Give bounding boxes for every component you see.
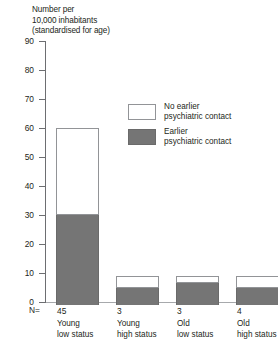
legend-label-line: psychiatric contact (164, 137, 231, 147)
x-axis-category-line: Old (177, 318, 213, 329)
x-axis-category-line: Young (117, 318, 157, 329)
x-axis-category-line: high status (237, 329, 277, 340)
x-axis-category-line: Old (237, 318, 277, 329)
x-axis-n-value: 4 (237, 306, 277, 318)
x-axis-category-line: low status (177, 329, 213, 340)
x-axis-n-value: 3 (117, 306, 157, 318)
x-axis-category-line: high status (117, 329, 157, 340)
x-axis-group-1: 45Younglow status (57, 306, 93, 340)
legend-label-line: No earlier (164, 102, 231, 112)
y-axis-title: Number per 10,000 inhabitants (standardi… (32, 5, 110, 37)
y-axis-tick-label: 10 (2, 269, 34, 277)
y-axis-tick-label: 90 (2, 37, 34, 45)
y-axis-tick-label: 60 (2, 124, 34, 132)
bar-segment-no-earlier-contact (176, 276, 219, 283)
bar-segment-earlier-contact (236, 288, 278, 305)
y-axis-tick-label: 40 (2, 182, 34, 190)
y-axis-tick-label: 70 (2, 95, 34, 103)
bar-segment-no-earlier-contact (236, 276, 278, 288)
x-axis-n-value: 45 (57, 306, 93, 318)
x-axis-group-4: 4Oldhigh status (237, 306, 277, 340)
bar-segment-earlier-contact (116, 288, 159, 305)
bar-segment-earlier-contact (56, 215, 99, 305)
bar-1 (56, 128, 99, 305)
legend-swatch-filled (128, 129, 156, 145)
y-axis-title-line-2: 10,000 inhabitants (32, 16, 110, 27)
y-axis-tick-label: 20 (2, 240, 34, 248)
bar-segment-no-earlier-contact (116, 276, 159, 288)
bar-segment-earlier-contact (176, 283, 219, 305)
x-axis-category-line: low status (57, 329, 93, 340)
y-axis-tick-label: 30 (2, 211, 34, 219)
x-axis-group-3: 3Oldlow status (177, 306, 213, 340)
legend-label-line: psychiatric contact (164, 112, 231, 122)
x-axis-group-2: 3Younghigh status (117, 306, 157, 340)
y-axis-title-line-3: (standardised for age) (32, 26, 110, 37)
y-axis-title-line-1: Number per (32, 5, 110, 16)
bar-3 (176, 276, 219, 305)
x-axis-category-line: Young (57, 318, 93, 329)
legend-label-line: Earlier (164, 127, 231, 137)
bar-4 (236, 276, 278, 305)
x-axis-n-value: 3 (177, 306, 213, 318)
legend-label: No earlierpsychiatric contact (164, 102, 231, 123)
y-axis-tick-label: 80 (2, 66, 34, 74)
n-prefix-label: N= (29, 306, 40, 314)
bar-2 (116, 276, 159, 305)
stacked-bar-chart: Number per 10,000 inhabitants (standardi… (0, 0, 278, 351)
bar-segment-no-earlier-contact (56, 128, 99, 215)
legend-swatch-empty (128, 104, 156, 120)
y-axis-tick-label: 50 (2, 153, 34, 161)
plot-area (45, 38, 273, 305)
legend-label: Earlierpsychiatric contact (164, 127, 231, 148)
